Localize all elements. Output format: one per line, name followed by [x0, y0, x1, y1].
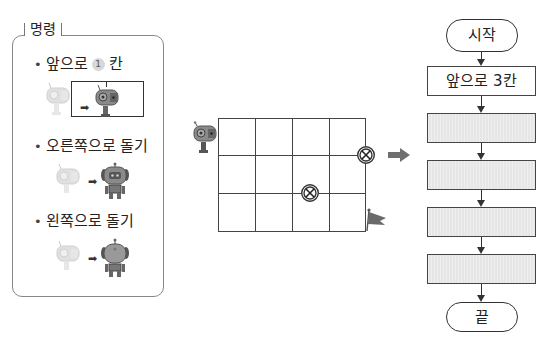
- commands-panel-title: 명령: [24, 20, 62, 38]
- x-circle-obstacle-icon: [301, 184, 319, 202]
- flow-arrow-icon: [477, 247, 485, 254]
- arrow-right-icon: ➡: [80, 101, 89, 114]
- flow-arrow-icon: [477, 106, 485, 113]
- number-badge: 1: [92, 58, 105, 71]
- flowchart-blank-step-4[interactable]: [427, 207, 536, 237]
- command-turn-right-label: •오른쪽으로 돌기: [34, 137, 148, 156]
- arrow-right-icon: [388, 148, 410, 162]
- robot-back-icon: [100, 238, 130, 280]
- robot-side-faded-icon: [45, 82, 71, 118]
- arrow-right-icon: ➡: [88, 175, 97, 188]
- flowchart-start: 시작: [446, 19, 518, 52]
- flowchart-end: 끝: [446, 302, 518, 332]
- flow-arrow-icon: [477, 295, 485, 302]
- flowchart-blank-step-2[interactable]: [427, 113, 536, 143]
- robot-front-icon: [100, 162, 130, 202]
- command-turn-left-label: •왼쪽으로 돌기: [34, 212, 134, 231]
- robot-side-faded-icon: [55, 163, 81, 199]
- flowchart-blank-step-3[interactable]: [427, 160, 536, 190]
- flow-arrow-icon: [477, 153, 485, 160]
- flowchart-blank-step-5[interactable]: [427, 254, 536, 284]
- flow-arrow-icon: [477, 59, 485, 66]
- arrow-right-icon: ➡: [88, 252, 97, 265]
- flag-icon: [366, 208, 388, 232]
- flowchart-step-1: 앞으로 3칸: [427, 66, 536, 96]
- robot-side-icon: [94, 84, 120, 120]
- game-grid: [218, 118, 366, 232]
- robot-side-faded-icon: [55, 240, 81, 276]
- command-forward-label: •앞으로1칸: [34, 55, 123, 74]
- robot-start-icon: [192, 121, 218, 157]
- x-circle-obstacle-icon: [357, 146, 375, 164]
- flow-arrow-icon: [477, 200, 485, 207]
